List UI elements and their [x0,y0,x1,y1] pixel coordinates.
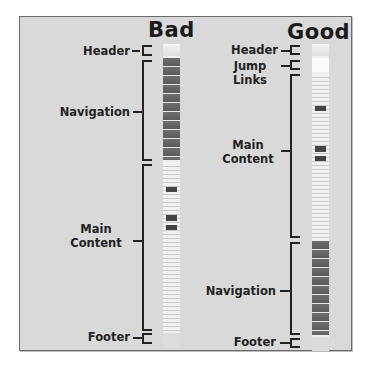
good-main-content-label: Main Content [218,138,278,166]
bad-thumb-main-content [163,163,180,331]
good-thumb-footer [312,337,329,351]
bad-navigation-label: Navigation [40,105,130,119]
bad-main-content-bracket [142,164,144,331]
good-header-label: Header [210,43,278,57]
bad-footer-label: Footer [60,330,130,344]
bad-thumb-header [163,44,180,56]
bad-page-thumbnail [163,44,180,347]
good-header-tick [281,50,290,52]
good-jump-links-label: Jump Links [222,59,278,87]
good-page-thumbnail [312,44,329,351]
good-thumb-jump-links [312,58,329,72]
good-navigation-bracket [290,242,292,335]
good-header-bracket [290,45,292,55]
good-thumb-image-block [315,106,326,111]
bad-thumb-image-block [166,215,177,221]
good-navigation-tick [280,290,290,292]
bad-main-content-line2: Content [70,236,122,250]
good-jump-links-line1: Jump [234,59,267,73]
bad-thumb-image-block [166,225,177,230]
good-thumb-header [312,44,329,56]
bad-main-content-line1: Main [80,222,111,236]
bad-header-bracket [142,45,144,56]
good-main-content-bracket [290,74,292,238]
good-thumb-main-content [312,74,329,239]
diagram-frame [19,16,352,351]
good-main-content-tick [281,150,290,152]
good-column-title: Good [287,20,350,44]
bad-header-label: Header [50,44,130,58]
good-jump-links-tick [281,65,290,67]
bad-navigation-tick [133,111,142,113]
bad-main-content-label: Main Content [66,222,126,250]
bad-thumb-footer [163,333,180,347]
good-thumb-navigation [312,241,329,335]
bad-main-content-tick [133,240,142,242]
bad-thumb-navigation [163,58,180,160]
bad-navigation-bracket [142,60,144,161]
good-jump-links-bracket [290,60,292,70]
good-footer-tick [280,342,290,344]
bad-footer-bracket [142,333,144,344]
good-footer-label: Footer [210,335,276,349]
good-footer-bracket [290,338,292,348]
good-thumb-image-block [315,156,326,161]
bad-thumb-image-block [166,187,177,192]
good-main-content-line1: Main [232,138,263,152]
good-navigation-label: Navigation [190,284,276,298]
good-thumb-image-block [315,146,326,152]
good-main-content-line2: Content [222,152,274,166]
bad-header-tick [132,50,140,52]
good-jump-links-line2: Links [233,73,267,87]
bad-footer-tick [133,337,142,339]
bad-column-title: Bad [148,18,195,42]
